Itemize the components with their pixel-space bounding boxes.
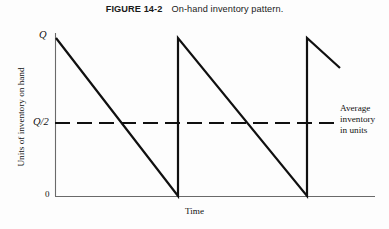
- annotation-line-1: Average: [340, 103, 375, 114]
- y-tick-label-q: Q: [39, 29, 47, 40]
- annotation-line-2: inventory: [340, 114, 375, 125]
- annotation-line-3: in units: [340, 125, 375, 136]
- y-tick-label-q-half: Q/2: [33, 116, 49, 127]
- y-axis-title: Units of inventory on hand: [16, 42, 26, 192]
- y-tick-label-zero: 0: [45, 189, 50, 199]
- figure-container: FIGURE 14-2On-hand inventory pattern. Q …: [0, 0, 389, 229]
- inventory-level-sawtooth: [56, 38, 340, 196]
- average-inventory-annotation: Average inventory in units: [340, 103, 375, 137]
- x-axis-title: Time: [0, 206, 389, 216]
- inventory-sawtooth-plot: [0, 0, 389, 229]
